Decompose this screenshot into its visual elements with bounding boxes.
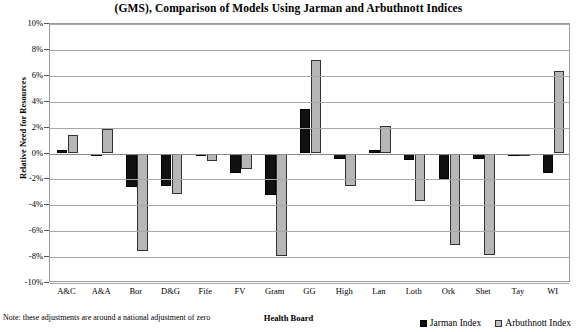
x-axis-tick-label: A&A	[92, 286, 111, 296]
bar	[554, 71, 565, 154]
x-axis-tick-label: Shet	[476, 286, 491, 296]
x-axis-tick-label: A&C	[57, 286, 75, 296]
bar-group	[432, 24, 467, 281]
gridline	[50, 257, 569, 258]
y-axis-tick-label: 2%	[32, 122, 43, 132]
y-axis-tick-label: 10%	[27, 18, 43, 28]
bar	[265, 154, 276, 195]
gridline	[50, 76, 569, 77]
bar-group	[397, 24, 432, 281]
chart-legend: Jarman Index Arbuthnott Index	[420, 318, 571, 328]
bar	[311, 60, 322, 153]
gridline	[50, 283, 569, 284]
y-axis-tick-label: 4%	[32, 96, 43, 106]
bar	[300, 109, 311, 153]
bar	[68, 135, 79, 153]
chart-container: (GMS), Comparison of Models Using Jarman…	[0, 0, 577, 332]
y-axis-tick-label: -4%	[29, 199, 43, 209]
bar-group	[258, 24, 293, 281]
bar-group	[328, 24, 363, 281]
gridline	[50, 205, 569, 206]
gridline	[50, 50, 569, 51]
bar-group	[293, 24, 328, 281]
y-axis-tick-label: -8%	[29, 251, 43, 261]
bar	[161, 154, 172, 186]
bar	[126, 154, 137, 188]
x-axis-tick-label: GG	[303, 286, 315, 296]
y-axis-tick-label: -10%	[25, 277, 43, 287]
chart-title: (GMS), Comparison of Models Using Jarman…	[0, 2, 577, 14]
x-axis-tick-label: D&G	[161, 286, 180, 296]
bar-group	[536, 24, 571, 281]
bar	[439, 154, 450, 180]
bar-group	[224, 24, 259, 281]
y-axis-tick-mark	[44, 282, 49, 283]
x-axis-tick-label: High	[336, 286, 353, 296]
x-axis-tick-label: Ork	[442, 286, 455, 296]
legend-swatch-icon	[495, 320, 502, 327]
bar-group	[119, 24, 154, 281]
y-axis-tick-label: 6%	[32, 70, 43, 80]
bar-group	[363, 24, 398, 281]
x-axis-tick-label: Gram	[265, 286, 284, 296]
bar	[102, 129, 113, 154]
y-axis-tick-label: -6%	[29, 225, 43, 235]
gridline	[50, 128, 569, 129]
x-axis-tick-label: FV	[235, 286, 246, 296]
bar	[380, 126, 391, 153]
legend-label: Jarman Index	[430, 318, 481, 328]
bar	[415, 154, 426, 202]
legend-item-jarman: Jarman Index	[420, 318, 481, 328]
x-axis-tick-label: Lan	[372, 286, 385, 296]
legend-swatch-icon	[420, 320, 427, 327]
bar	[345, 154, 356, 186]
plot-area	[49, 23, 570, 282]
bar-group	[502, 24, 537, 281]
y-axis: Relative Need for Resources 10%8%6%4%2%0…	[0, 23, 49, 282]
y-axis-tick-label: 0%	[32, 148, 43, 158]
gridline	[50, 179, 569, 180]
chart-note: Note: these adjustments are around a nat…	[3, 313, 210, 322]
y-axis-title: Relative Need for Resources	[18, 48, 28, 208]
bar	[172, 154, 183, 194]
bar-series-layer	[50, 24, 569, 281]
x-axis: A&CA&ABorD&GFifeFVGramGGHighLanLothOrkSh…	[49, 286, 570, 302]
legend-item-arbuthnott: Arbuthnott Index	[495, 318, 571, 328]
bar	[241, 154, 252, 170]
bar	[230, 154, 241, 173]
legend-label: Arbuthnott Index	[505, 318, 571, 328]
bar	[137, 154, 148, 251]
bar-group	[85, 24, 120, 281]
bar-group	[467, 24, 502, 281]
x-axis-tick-label: Loth	[406, 286, 422, 296]
gridline	[50, 24, 569, 25]
x-axis-tick-label: Tay	[512, 286, 525, 296]
y-axis-tick-label: -2%	[29, 173, 43, 183]
bar-group	[50, 24, 85, 281]
bar-group	[154, 24, 189, 281]
bar	[207, 154, 218, 162]
bar-group	[189, 24, 224, 281]
y-axis-tick-label: 8%	[32, 44, 43, 54]
x-axis-tick-label: WI	[547, 286, 558, 296]
bar	[543, 154, 554, 173]
bar	[484, 154, 495, 255]
gridline	[50, 102, 569, 103]
zero-line	[50, 154, 569, 155]
x-axis-tick-label: Fife	[198, 286, 212, 296]
x-axis-tick-label: Bor	[129, 286, 142, 296]
gridline	[50, 231, 569, 232]
